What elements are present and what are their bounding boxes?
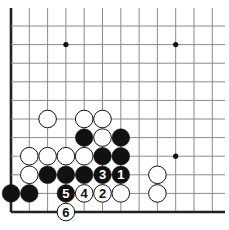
go-board: 315426 xyxy=(0,0,229,230)
stone-disc xyxy=(149,166,167,184)
black-stone xyxy=(2,185,20,203)
white-stone xyxy=(149,185,167,203)
black-stone xyxy=(112,147,130,165)
stone-disc xyxy=(21,166,39,184)
white-stone xyxy=(39,147,57,165)
stone-disc xyxy=(94,110,112,128)
stone-disc xyxy=(112,129,130,147)
stone-disc xyxy=(112,147,130,165)
stone-disc xyxy=(75,147,93,165)
black-stone xyxy=(112,129,130,147)
stone-disc xyxy=(21,185,39,203)
stone-disc xyxy=(2,185,20,203)
white-stone-4: 4 xyxy=(75,185,93,203)
stone-disc xyxy=(39,110,57,128)
stone-disc xyxy=(112,185,130,203)
white-stone xyxy=(21,147,39,165)
stone-disc xyxy=(39,166,57,184)
white-stone xyxy=(149,166,167,184)
stone-disc xyxy=(75,110,93,128)
white-stone xyxy=(57,147,75,165)
white-stone xyxy=(94,129,112,147)
stone-disc xyxy=(149,185,167,203)
star-point xyxy=(173,42,178,47)
stone-disc xyxy=(94,129,112,147)
black-stone xyxy=(75,166,93,184)
white-stone xyxy=(75,147,93,165)
stone-disc xyxy=(57,166,75,184)
white-stone-2: 2 xyxy=(94,185,112,203)
move-number: 2 xyxy=(99,186,106,201)
white-stone xyxy=(112,185,130,203)
move-number: 3 xyxy=(99,167,106,182)
black-stone xyxy=(39,166,57,184)
black-stone-5: 5 xyxy=(57,185,75,203)
stone-disc xyxy=(57,147,75,165)
stone-disc xyxy=(39,147,57,165)
black-stone-3: 3 xyxy=(94,166,112,184)
black-stone xyxy=(57,166,75,184)
star-point xyxy=(63,42,68,47)
white-stone-6: 6 xyxy=(57,203,75,221)
move-number: 1 xyxy=(117,167,124,182)
move-number: 4 xyxy=(81,186,89,201)
stone-disc xyxy=(21,147,39,165)
stone-disc xyxy=(75,166,93,184)
white-stone xyxy=(75,110,93,128)
stone-disc xyxy=(94,147,112,165)
white-stone xyxy=(94,110,112,128)
white-stone xyxy=(39,110,57,128)
star-point xyxy=(173,154,178,159)
move-number: 6 xyxy=(62,205,69,220)
stone-disc xyxy=(75,129,93,147)
black-stone xyxy=(21,185,39,203)
black-stone xyxy=(75,129,93,147)
black-stone-1: 1 xyxy=(112,166,130,184)
black-stone xyxy=(94,147,112,165)
move-number: 5 xyxy=(62,186,69,201)
white-stone xyxy=(21,166,39,184)
